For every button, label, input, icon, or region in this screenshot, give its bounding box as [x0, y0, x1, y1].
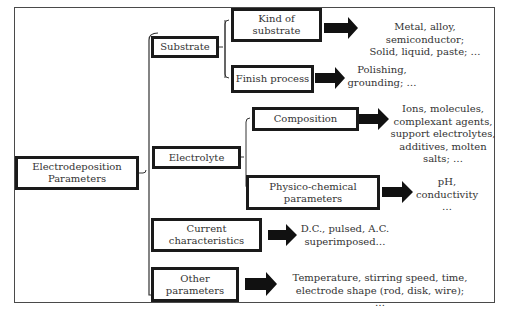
- description-composition: Ions, molecules, complexant agents, supp…: [388, 103, 498, 166]
- arrow-icon-finish-process: [315, 67, 345, 89]
- category-box-electrolyte: Electrolyte: [152, 146, 241, 169]
- description-physico-chemical: pH, conductivity …: [412, 176, 482, 214]
- description-current-characteristics: D.C., pulsed, A.C. superimposed…: [290, 223, 400, 248]
- substrate-bracket: [218, 20, 229, 78]
- description-kind-of-substrate: Metal, alloy, semiconductor; Solid, liqu…: [355, 21, 495, 59]
- arrow-icon-composition: [358, 108, 389, 130]
- subcategory-box-physico-chemical: Physico-chemical parameters: [246, 175, 380, 210]
- arrow-icon-physico-chemical: [382, 181, 413, 203]
- category-box-current-characteristics: Current characteristics: [151, 218, 262, 252]
- subcategory-box-finish-process: Finish process: [231, 65, 314, 93]
- arrow-icon-other-parameters: [245, 272, 277, 296]
- category-box-other-parameters: Other parameters: [151, 267, 239, 302]
- connector-root: [138, 170, 146, 173]
- subcategory-box-composition: Composition: [252, 107, 359, 131]
- category-box-substrate: Substrate: [151, 36, 219, 58]
- description-other-parameters: Temperature, stirring speed, time, elect…: [290, 272, 470, 310]
- root-box-electrodeposition-parameters: Electrodeposition Parameters: [15, 156, 139, 190]
- subcategory-box-kind-of-substrate: Kind of substrate: [231, 8, 322, 42]
- arrow-icon-kind-of-substrate: [324, 17, 358, 39]
- description-finish-process: Polishing, grounding; …: [342, 64, 422, 89]
